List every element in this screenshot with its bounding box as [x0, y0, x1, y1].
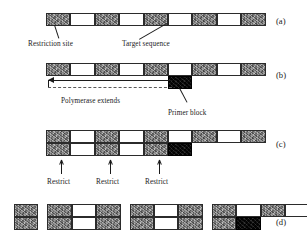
panel-b-top-segment-7-dark [192, 63, 216, 76]
panel-d-f4-bottom-segment-2-black [236, 217, 260, 230]
panel-d-f4-top-segment-2-light [236, 204, 260, 217]
panel-c-bottom-segment-6-black [168, 143, 192, 156]
panel-a-strand-top [46, 13, 266, 26]
polymerase-arrow [48, 80, 172, 81]
panel-a-top-segment-8-light [217, 13, 241, 26]
panel-d-f2-bottom-segment-3-dark [96, 217, 120, 230]
panel-c-bottom-segment-2-light [70, 143, 94, 156]
polymerase-extends-label: Polymerase extends [61, 98, 120, 105]
panel-d-fragment-4-bottom [212, 217, 307, 230]
panel-label-b: (b) [276, 71, 286, 80]
panel-d-fragment-2 [47, 204, 120, 230]
panel-d-f2-top-segment-2-light [72, 204, 96, 217]
panel-d-f3-bottom-segment-1-dark [130, 217, 154, 230]
panel-d-f2-top-segment-1-dark [47, 204, 71, 217]
panel-b-top-segment-8-light [217, 63, 241, 76]
polymerase-dashed-line [48, 87, 172, 88]
panel-b-top-segment-3-dark [95, 63, 119, 76]
panel-a-top-segment-7-dark [192, 13, 216, 26]
panel-d-f1-bottom-segment-1-dark [14, 217, 38, 230]
target-sequence-label: Target sequence [122, 41, 170, 48]
restrict-arrow-2 [110, 160, 111, 174]
panel-d-f2-bottom-segment-1-dark [47, 217, 71, 230]
figure-canvas: (a) Restriction site Target sequence (b)… [0, 0, 307, 243]
panel-d-f4-top-segment-3-dark [261, 204, 285, 217]
panel-a-top-segment-1-dark [46, 13, 70, 26]
panel-d-fragment-4-top [212, 204, 307, 217]
restrict-arrow-1 [61, 160, 62, 174]
panel-d-f4-top-segment-1-dark [212, 204, 236, 217]
panel-d-f3-top-segment-2-light [154, 204, 178, 217]
panel-c-top-segment-4-light [119, 130, 143, 143]
panel-c-top-segment-9-dark [241, 130, 265, 143]
panel-d-fragment-3 [130, 204, 203, 230]
panel-c-top-segment-3-dark [95, 130, 119, 143]
panel-label-a: (a) [276, 17, 286, 26]
panel-c-bottom-segment-4-light [119, 143, 143, 156]
panel-c-strand-top [46, 130, 266, 143]
panel-d-fragment-2-bottom [47, 217, 120, 230]
panel-d-fragment-1-bottom [14, 217, 38, 230]
panel-b-top-segment-9-dark [241, 63, 265, 76]
restrict-arrow-3 [159, 160, 160, 174]
panel-d-fragment-3-bottom [130, 217, 203, 230]
panel-d-fragment-4 [212, 204, 307, 230]
panel-a-top-segment-3-dark [95, 13, 119, 26]
restrict-label-2: Restrict [96, 179, 119, 186]
panel-d-f3-top-segment-3-dark [178, 204, 202, 217]
panel-a-top-segment-9-dark [241, 13, 265, 26]
panel-d-f2-bottom-segment-2-light [72, 217, 96, 230]
panel-c-top-segment-7-dark [192, 130, 216, 143]
panel-d-f3-top-segment-1-dark [130, 204, 154, 217]
panel-b-strand-top [46, 63, 266, 76]
panel-d-f3-bottom-segment-2-light [154, 217, 178, 230]
panel-c-bottom-segment-1-dark [46, 143, 70, 156]
panel-a-top-segment-6-light [168, 13, 192, 26]
polymerase-left-tick [48, 80, 49, 87]
panel-c-bottom-segment-3-dark [95, 143, 119, 156]
panel-c-bottom-segment-5-dark [144, 143, 168, 156]
panel-d-f2-top-segment-3-dark [96, 204, 120, 217]
panel-b-top-segment-2-light [70, 63, 94, 76]
panel-label-c: (c) [276, 140, 286, 149]
panel-d-fragment-1 [14, 204, 38, 230]
restriction-site-leader [54, 25, 59, 39]
panel-label-d: (d) [276, 218, 286, 227]
panel-c-strand-bottom [46, 143, 192, 156]
panel-d-f1-top-segment-1-dark [14, 204, 38, 217]
restriction-site-label: Restriction site [28, 41, 73, 48]
panel-d-fragment-3-top [130, 204, 203, 217]
panel-c-top-segment-1-dark [46, 130, 70, 143]
panel-c-top-segment-2-light [70, 130, 94, 143]
panel-c-top-segment-8-light [217, 130, 241, 143]
panel-b-top-segment-4-light [119, 63, 143, 76]
restrict-label-1: Restrict [47, 179, 70, 186]
panel-b-top-segment-1-dark [46, 63, 70, 76]
panel-a-top-segment-2-light [70, 13, 94, 26]
primer-block-label: Primer block [168, 110, 207, 117]
panel-d-f3-bottom-segment-3-dark [178, 217, 202, 230]
panel-b-top-segment-5-dark [144, 63, 168, 76]
panel-c-top-segment-6-light [168, 130, 192, 143]
panel-d-fragment-2-top [47, 204, 120, 217]
restrict-label-3: Restrict [145, 179, 168, 186]
panel-d-fragment-1-top [14, 204, 38, 217]
panel-c-top-segment-5-dark [144, 130, 168, 143]
panel-b-top-segment-6-light [168, 63, 192, 76]
panel-d-f4-bottom-segment-1-dark [212, 217, 236, 230]
primer-block-leader [179, 88, 187, 103]
panel-a-top-segment-4-light [119, 13, 143, 26]
panel-d-fragments [14, 204, 307, 230]
panel-d-f4-top-segment-4-light [285, 204, 307, 217]
